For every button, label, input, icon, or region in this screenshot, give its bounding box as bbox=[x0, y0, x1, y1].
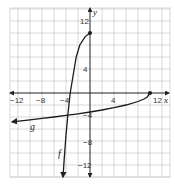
f-endpoint-dot bbox=[88, 31, 92, 35]
y-tick-label: −8 bbox=[83, 138, 93, 147]
coordinate-plane: −12 −8 −4 4 12 x 12 4 −4 −8 −12 y f g bbox=[0, 0, 175, 184]
y-axis-label: y bbox=[92, 7, 97, 17]
x-axis-label: x bbox=[163, 95, 168, 105]
x-tick-label: −8 bbox=[36, 96, 46, 105]
y-tick-label: 4 bbox=[83, 65, 88, 74]
x-tick-label: 12 bbox=[153, 96, 162, 105]
y-tick-label: 12 bbox=[80, 17, 89, 26]
curve-g-label: g bbox=[30, 121, 35, 132]
x-tick-label: −4 bbox=[60, 96, 70, 105]
curve-f-label: f bbox=[58, 148, 62, 159]
x-tick-label: 4 bbox=[111, 96, 116, 105]
x-tick-label: −12 bbox=[10, 96, 24, 105]
y-tick-label: −12 bbox=[78, 161, 92, 170]
g-endpoint-dot bbox=[148, 91, 152, 95]
curve-g bbox=[12, 93, 150, 122]
